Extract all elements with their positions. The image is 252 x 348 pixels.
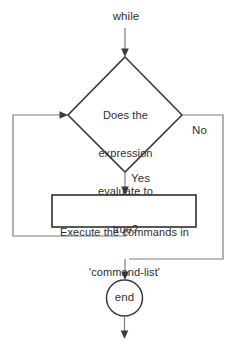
- process-text-line-1: Execute the commands in: [52, 226, 197, 239]
- entry-label: while: [0, 10, 252, 23]
- end-label: end: [106, 291, 143, 304]
- decision-text-line-3: evaluate to: [68, 185, 183, 198]
- arrowhead-loopback-icon: [60, 111, 69, 119]
- flowchart-canvas: while Does the expression evaluate to tr…: [0, 0, 252, 348]
- decision-text-line-2: expression: [68, 147, 183, 160]
- arrowhead-exit-icon: [121, 331, 129, 340]
- connector-while-to-decision: [121, 28, 129, 57]
- arrowhead-entry-icon: [121, 49, 129, 58]
- decision-text-line-1: Does the: [68, 109, 183, 122]
- connector-exit: [121, 316, 129, 339]
- branch-label-true: Yes: [131, 172, 165, 185]
- branch-label-false: No: [192, 124, 220, 137]
- process-text-line-2: 'command-list': [52, 266, 197, 279]
